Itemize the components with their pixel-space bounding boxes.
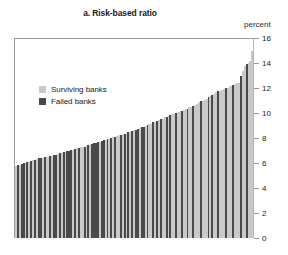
legend-item-failed-banks: Failed banks xyxy=(39,95,107,107)
y-axis-tick-label: 8 xyxy=(262,133,266,144)
y-axis: 1614121086420 xyxy=(254,38,288,238)
y-axis-tick-mark xyxy=(254,138,259,139)
bar-surviving xyxy=(251,51,253,238)
y-axis-tick-label: 6 xyxy=(262,158,266,169)
y-axis-tick-mark xyxy=(254,188,259,189)
y-axis-unit-label: percent xyxy=(240,20,288,29)
y-axis-tick-mark xyxy=(254,163,259,164)
chart-title: a. Risk-based ratio xyxy=(0,8,240,18)
y-axis-tick-label: 16 xyxy=(262,33,271,44)
y-axis-tick-mark xyxy=(254,113,259,114)
chart-figure: a. Risk-based ratio percent Surviving ba… xyxy=(0,0,288,255)
y-axis-tick-label: 0 xyxy=(262,233,266,244)
y-axis-tick-mark xyxy=(254,213,259,214)
y-axis-tick-mark xyxy=(254,88,259,89)
legend-label-surviving: Surviving banks xyxy=(51,85,107,94)
bar-series xyxy=(15,39,253,238)
y-axis-tick-label: 2 xyxy=(262,208,266,219)
y-axis-tick-label: 14 xyxy=(262,58,271,69)
y-axis-tick-mark xyxy=(254,63,259,64)
y-axis-tick-mark xyxy=(254,38,259,39)
plot-area: Surviving banks Failed banks xyxy=(14,38,254,238)
y-axis-tick-label: 10 xyxy=(262,108,271,119)
chart-legend: Surviving banks Failed banks xyxy=(39,83,107,107)
legend-label-failed: Failed banks xyxy=(51,97,96,106)
legend-swatch-failed-icon xyxy=(39,98,46,105)
legend-swatch-surviving-icon xyxy=(39,86,46,93)
legend-item-surviving-banks: Surviving banks xyxy=(39,83,107,95)
y-axis-tick-label: 4 xyxy=(262,183,266,194)
y-axis-tick-label: 12 xyxy=(262,83,271,94)
y-axis-tick-mark xyxy=(254,238,259,239)
